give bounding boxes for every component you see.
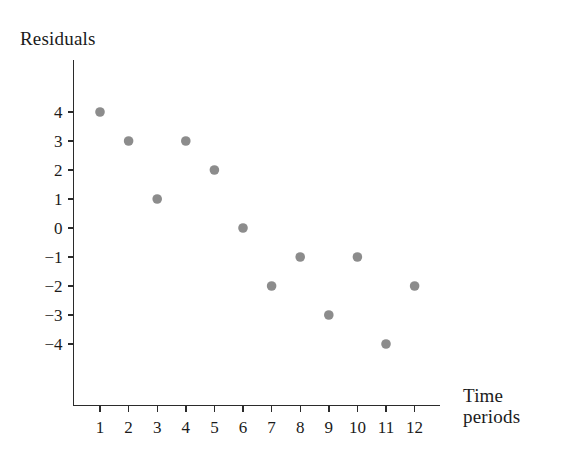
x-tick-label: 2 [124, 419, 133, 436]
y-tick-label: −3 [44, 307, 62, 324]
data-point [124, 136, 134, 146]
data-point [295, 252, 305, 262]
y-tick-label: −1 [44, 249, 62, 266]
data-point [238, 223, 248, 233]
data-point [267, 281, 277, 291]
x-tick-label: 12 [406, 419, 423, 436]
y-tick-label: 3 [54, 133, 63, 150]
y-tick-label: 4 [54, 104, 63, 121]
data-point [210, 165, 220, 175]
plot-area [0, 0, 564, 464]
x-tick-label: 5 [210, 419, 219, 436]
y-tick-label: 2 [54, 162, 63, 179]
x-tick-label: 10 [349, 419, 366, 436]
y-tick-label: −4 [44, 336, 62, 353]
x-tick-label: 3 [153, 419, 162, 436]
y-tick-label: 0 [54, 220, 63, 237]
data-point [95, 107, 105, 117]
x-axis-ticks [100, 406, 415, 412]
x-tick-label: 9 [325, 419, 334, 436]
y-tick-label: 1 [54, 191, 63, 208]
data-point [324, 310, 334, 320]
x-tick-label: 6 [239, 419, 248, 436]
x-tick-label: 4 [182, 419, 191, 436]
residuals-scatter-chart: Residuals Timeperiods 43210−1−2−3−4 1234… [0, 0, 564, 464]
x-tick-label: 7 [267, 419, 276, 436]
data-point [152, 194, 162, 204]
data-point [181, 136, 191, 146]
y-axis-ticks [68, 112, 74, 344]
y-tick-label: −2 [44, 278, 62, 295]
data-points [95, 107, 419, 349]
data-point [410, 281, 420, 291]
x-tick-label: 11 [378, 419, 394, 436]
data-point [353, 252, 363, 262]
x-tick-label: 8 [296, 419, 305, 436]
x-tick-label: 1 [96, 419, 105, 436]
data-point [381, 339, 391, 349]
